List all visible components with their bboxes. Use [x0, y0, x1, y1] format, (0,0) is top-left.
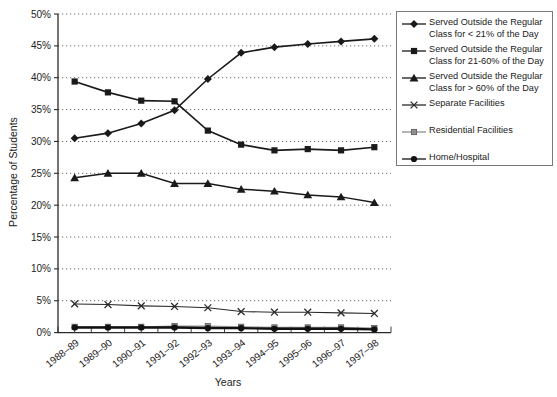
series-line	[75, 82, 375, 151]
series-line	[75, 328, 375, 330]
y-tick-label: 5%	[37, 295, 52, 306]
legend-label: Served Outside the Regular Class for < 2…	[429, 16, 549, 40]
gridlines	[58, 14, 391, 301]
x-tick-label: 1990–91	[110, 337, 148, 370]
y-tick-label: 20%	[31, 200, 51, 211]
y-tick-label: 45%	[31, 40, 51, 51]
legend-entry-served-outside-the-regular-class-for-60-of: Served Outside the Regular Class for > 6…	[402, 70, 549, 97]
x-tick-label: 1992–93	[177, 337, 215, 370]
y-tick-label: 35%	[31, 104, 51, 115]
y-tick-label: 40%	[31, 72, 51, 83]
diamond-marker-icon	[402, 18, 426, 30]
y-tick-label: 10%	[31, 263, 51, 274]
y-tick-label: 50%	[31, 9, 51, 20]
legend-label: Separate Facilities	[429, 97, 505, 109]
legend-label: Home/Hospital	[429, 151, 489, 163]
legend-entry-separate-facilities: Separate Facilities	[402, 97, 549, 124]
x-tick-label: 1991–92	[143, 337, 181, 370]
legend-entry-served-outside-the-regular-class-for-21-60: Served Outside the Regular Class for 21-…	[402, 43, 549, 70]
legend-entry-home-hospital: Home/Hospital	[402, 151, 549, 178]
x-tick-label: 1989–90	[77, 337, 115, 370]
triangle-marker-icon	[402, 72, 426, 84]
y-tick-label: 30%	[31, 136, 51, 147]
x-tick-label: 1988–89	[43, 337, 81, 370]
series-line	[75, 173, 375, 202]
legend-label: Served Outside the Regular Class for > 6…	[429, 70, 549, 94]
legend-entry-served-outside-the-regular-class-for-21-of: Served Outside the Regular Class for < 2…	[402, 16, 549, 43]
y-tick-label: 25%	[31, 168, 51, 179]
x-axis-title: Years	[215, 376, 241, 388]
series-served-outside-the-regular-class-for-60-of	[70, 169, 379, 206]
x-tick-label: 1994–95	[243, 337, 281, 370]
series-served-outside-the-regular-class-for-21-of	[71, 35, 379, 142]
y-axis-title: Percentage of Students	[7, 117, 19, 227]
series-line	[75, 39, 375, 138]
y-tick-label: 0%	[37, 327, 52, 338]
legend-entry-residential-facilities: Residential Facilities	[402, 124, 549, 151]
legend-label: Residential Facilities	[429, 124, 513, 136]
series-served-outside-the-regular-class-for-21-60	[72, 78, 378, 153]
y-axis-ticks: 0%5%10%15%20%25%30%35%40%45%50%	[31, 9, 58, 339]
series-line	[75, 304, 375, 314]
figure: 0%5%10%15%20%25%30%35%40%45%50%1988–8919…	[0, 0, 557, 397]
y-tick-label: 15%	[31, 232, 51, 243]
x-marker-icon	[402, 99, 426, 111]
circle-marker-icon	[402, 153, 426, 165]
x-axis-labels: 1988–891989–901990–911991–921992–931993–…	[43, 337, 380, 370]
legend: Served Outside the Regular Class for < 2…	[396, 11, 553, 166]
square-marker-icon	[402, 45, 426, 57]
series-separate-facilities	[71, 301, 378, 317]
x-tick-label: 1995–96	[277, 337, 315, 370]
x-tick-label: 1993–94	[210, 337, 248, 370]
square-small-marker-icon	[402, 126, 426, 138]
legend-label: Served Outside the Regular Class for 21-…	[429, 43, 549, 67]
x-tick-label: 1996–97	[310, 337, 348, 370]
x-tick-label: 1997–98	[343, 337, 381, 370]
